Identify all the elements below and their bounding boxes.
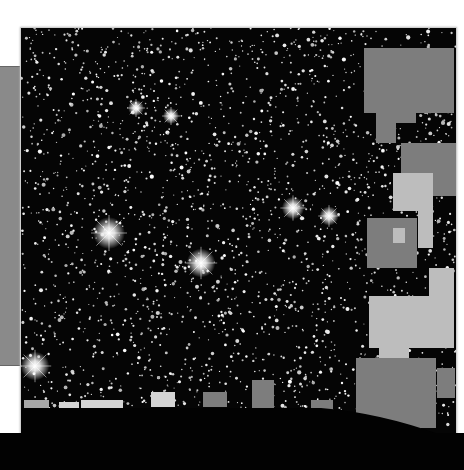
star-field-image (20, 27, 457, 436)
star-field-canvas (21, 28, 456, 435)
left-gray-panel (0, 66, 20, 366)
bottom-black-band (0, 433, 464, 470)
